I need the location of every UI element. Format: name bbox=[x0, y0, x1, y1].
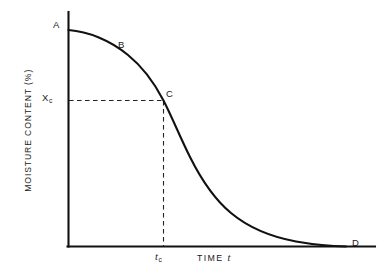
x-tick-subscript: c bbox=[159, 256, 163, 263]
curve-point-label-a: A bbox=[53, 20, 60, 30]
x-tick-label-critical-time: tc bbox=[155, 252, 162, 263]
curve-point-label-c: C bbox=[166, 89, 173, 99]
y-tick-label-critical-moisture: Xc bbox=[42, 93, 52, 103]
x-tick-symbol: t bbox=[155, 251, 158, 262]
x-axis-title-variable: t bbox=[227, 252, 231, 263]
chart-figure: A B C D MOISTURE CONTENT (%) TIME t Xc t… bbox=[0, 0, 377, 276]
x-axis-title: TIME t bbox=[197, 253, 232, 264]
x-axis-title-main: TIME bbox=[197, 253, 224, 263]
y-tick-symbol: X bbox=[42, 92, 49, 103]
chart-background bbox=[0, 0, 377, 276]
y-tick-subscript: c bbox=[49, 97, 53, 104]
y-axis-title: MOISTURE CONTENT (%) bbox=[24, 55, 33, 205]
chart-canvas bbox=[0, 0, 377, 276]
curve-point-label-b: B bbox=[118, 40, 125, 50]
curve-point-label-d: D bbox=[352, 238, 359, 248]
